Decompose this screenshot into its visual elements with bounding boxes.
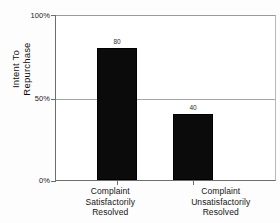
y-axis-title-line-2: Repurchase xyxy=(21,42,32,95)
x-category-label-0: Complaint Satisfactorily Resolved xyxy=(55,186,166,222)
y-axis-title-line-1: Intent To xyxy=(10,50,21,88)
x-category-label-1: Complaint Unsatisfactorily Resolved xyxy=(166,186,277,222)
y-tick-label-50: 50% xyxy=(35,95,50,103)
bar-complaint-satisfactorily-resolved: 80 xyxy=(97,48,137,180)
x-category-line: Resolved xyxy=(166,207,277,218)
bar-chart: Intent To Repurchase 100% 50% 0% 80 40 xyxy=(0,0,280,223)
x-axis-labels: Complaint Satisfactorily Resolved Compla… xyxy=(55,186,276,222)
bar-value-label: 80 xyxy=(113,38,120,46)
x-tick-1 xyxy=(193,180,194,185)
x-category-line: Unsatisfactorily xyxy=(166,197,277,208)
x-category-line: Resolved xyxy=(55,207,166,218)
y-axis-title: Intent To Repurchase xyxy=(4,4,38,134)
x-tick-0 xyxy=(117,180,118,185)
x-category-line: Satisfactorily xyxy=(55,197,166,208)
bar-value-label: 40 xyxy=(189,104,196,112)
y-tick-label-0: 0% xyxy=(39,177,50,185)
y-tick-label-100: 100% xyxy=(30,12,50,20)
y-tick-0 xyxy=(51,181,56,182)
plot-area: 100% 50% 0% 80 40 xyxy=(55,15,276,181)
bars-layer: 80 40 xyxy=(56,16,275,180)
bar-complaint-unsatisfactorily-resolved: 40 xyxy=(173,114,213,180)
x-category-line: Complaint xyxy=(55,186,166,197)
x-category-line: Complaint xyxy=(166,186,277,197)
